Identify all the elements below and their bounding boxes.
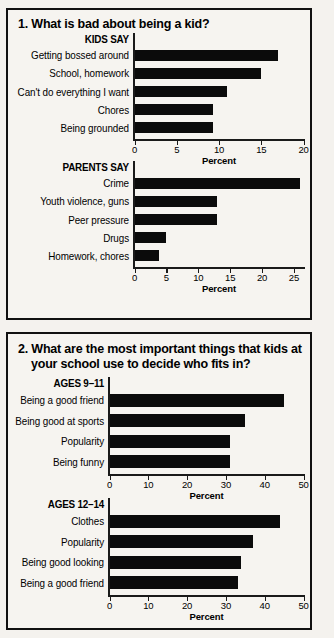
panel-question-1: 1. What is bad about being a kid? KIDS S… <box>6 8 312 320</box>
bar-label: Popularity <box>14 436 104 447</box>
x-axis-tick-label: 0 <box>132 144 137 155</box>
bar-label: School, homework <box>15 68 129 79</box>
x-axis-tick-label: 20 <box>182 479 192 490</box>
x-axis-title: Percent <box>202 155 236 166</box>
x-axis-tick-label: 10 <box>143 600 153 611</box>
x-axis-tick-label: 5 <box>174 144 179 155</box>
bar <box>135 86 228 97</box>
x-axis-tick-label: 0 <box>107 479 112 490</box>
bar <box>135 232 167 243</box>
bar-label: Youth violence, guns <box>15 196 129 207</box>
x-axis-tick-label: 5 <box>164 272 169 283</box>
panel-2-title-line1: 2. What are the most important things th… <box>18 342 302 356</box>
panel-2-title-line2: your school use to decide who fits in? <box>18 357 302 372</box>
bar-label: Crime <box>15 178 129 189</box>
bar-label: Can't do everything I want <box>15 86 129 97</box>
bar-label: Clothes <box>14 516 104 527</box>
bar <box>110 414 246 427</box>
x-axis-tick-label: 15 <box>256 144 266 155</box>
bar <box>110 435 230 448</box>
x-axis-tick-label: 25 <box>289 272 299 283</box>
bar <box>110 394 285 407</box>
x-axis-tick-label: 15 <box>225 272 235 283</box>
x-axis-title: Percent <box>189 611 223 622</box>
x-axis-tick-label: 30 <box>221 479 231 490</box>
x-axis-tick-label: 50 <box>298 600 308 611</box>
bar-label: Popularity <box>14 537 104 548</box>
panel-2-title: 2. What are the most important things th… <box>8 334 310 372</box>
panel-question-2: 2. What are the most important things th… <box>6 332 312 630</box>
panel-1-title: 1. What is bad about being a kid? <box>8 10 310 32</box>
panel-1-title-line1: 1. What is bad about being a kid? <box>18 17 209 31</box>
bar-label: Being a good friend <box>14 578 104 589</box>
x-axis-tick-label: 10 <box>193 272 203 283</box>
bar <box>135 68 262 79</box>
bar <box>135 104 214 115</box>
x-axis-tick-label: 20 <box>298 144 308 155</box>
chart-group-label: AGES 12–14 <box>14 497 104 511</box>
bar-label: Being good at sports <box>14 416 104 427</box>
chart-group-label: AGES 9–11 <box>14 376 104 390</box>
bar-label: Being a good friend <box>14 395 104 406</box>
bar <box>110 535 254 548</box>
x-axis-tick-label: 0 <box>132 272 137 283</box>
bar <box>110 515 281 528</box>
x-axis-tick-label: 20 <box>182 600 192 611</box>
bar <box>135 196 218 207</box>
x-axis-tick-label: 40 <box>260 600 270 611</box>
x-axis-line <box>108 595 305 597</box>
chart-group-label: PARENTS SAY <box>15 160 129 174</box>
bar-label: Being funny <box>14 457 104 468</box>
bar <box>110 576 238 589</box>
x-axis-tick-label: 40 <box>260 479 270 490</box>
x-axis-line <box>133 267 305 269</box>
x-axis-title: Percent <box>202 283 236 294</box>
bar <box>135 178 301 189</box>
bar <box>135 122 214 133</box>
chart-group-label: KIDS SAY <box>15 32 129 46</box>
bar-label: Getting bossed around <box>15 50 129 61</box>
bar <box>110 455 230 468</box>
x-axis-tick-label: 10 <box>143 479 153 490</box>
x-axis-line <box>108 474 305 476</box>
x-axis-tick-label: 20 <box>257 272 267 283</box>
bar-label: Homework, chores <box>15 251 129 262</box>
bar <box>135 250 159 261</box>
bar <box>135 214 218 225</box>
bar-label: Drugs <box>15 232 129 243</box>
bar-label: Chores <box>15 104 129 115</box>
x-axis-title: Percent <box>189 490 223 501</box>
x-axis-tick-label: 0 <box>107 600 112 611</box>
bar <box>110 556 242 569</box>
x-axis-tick-label: 50 <box>298 479 308 490</box>
bar-label: Being good looking <box>14 557 104 568</box>
bar-label: Peer pressure <box>15 214 129 225</box>
bar <box>135 50 279 61</box>
x-axis-tick-label: 30 <box>221 600 231 611</box>
bar-label: Being grounded <box>15 123 129 134</box>
x-axis-tick-label: 10 <box>214 144 224 155</box>
